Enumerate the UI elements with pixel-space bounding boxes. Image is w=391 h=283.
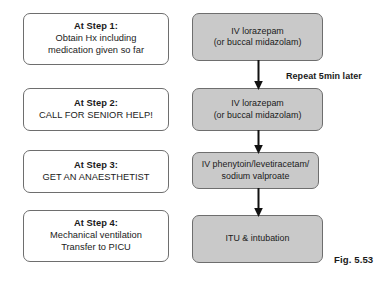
- step-box-4-line2: Transfer to PICU: [61, 242, 131, 254]
- treatment-box-1-line1: IV lorazepam: [231, 26, 284, 37]
- step-box-1-label: At Step 1:: [74, 21, 118, 33]
- step-box-1-line1: Obtain Hx including: [56, 33, 137, 45]
- repeat-annotation: Repeat 5min later: [286, 71, 362, 81]
- step-box-4-label: At Step 4:: [74, 218, 118, 230]
- treatment-box-1: IV lorazepam (or buccal midazolam): [192, 13, 323, 61]
- treatment-box-4: ITU & intubation: [192, 215, 323, 263]
- step-box-1: At Step 1: Obtain Hx including medicatio…: [23, 13, 169, 65]
- treatment-box-2-line2: (or buccal midazolam): [214, 110, 302, 121]
- step-box-3-label: At Step 3:: [74, 160, 118, 172]
- figure-caption: Fig. 5.53: [334, 254, 373, 265]
- arrow-down-icon-3: [252, 188, 265, 217]
- arrow-down-icon-1: [252, 60, 265, 90]
- step-box-4: At Step 4: Mechanical ventilation Transf…: [23, 210, 169, 262]
- treatment-box-3-line2: sodium valproate: [222, 171, 290, 182]
- flowchart-figure: At Step 1: Obtain Hx including medicatio…: [0, 0, 391, 283]
- treatment-box-2: IV lorazepam (or buccal midazolam): [192, 88, 323, 131]
- step-box-3: At Step 3: GET AN ANAESTHETIST: [23, 150, 169, 193]
- step-box-4-line1: Mechanical ventilation: [50, 230, 142, 242]
- step-box-1-line2: medication given so far: [48, 45, 144, 57]
- treatment-box-2-line1: IV lorazepam: [231, 98, 284, 109]
- step-box-2-line1: CALL FOR SENIOR HELP!: [39, 110, 153, 122]
- treatment-box-4-line1: ITU & intubation: [226, 233, 290, 244]
- arrow-down-icon-2: [252, 130, 265, 154]
- treatment-box-3-line1: IV phenytoin/levetiracetam/: [202, 159, 310, 170]
- step-box-2: At Step 2: CALL FOR SENIOR HELP!: [23, 88, 169, 131]
- step-box-2-label: At Step 2:: [74, 98, 118, 110]
- treatment-box-1-line2: (or buccal midazolam): [214, 37, 302, 48]
- treatment-box-3: IV phenytoin/levetiracetam/ sodium valpr…: [192, 152, 319, 189]
- step-box-3-line1: GET AN ANAESTHETIST: [42, 172, 149, 184]
